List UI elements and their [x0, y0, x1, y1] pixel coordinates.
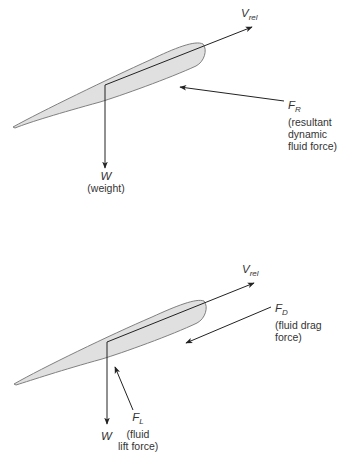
vrel-symbol: V: [242, 263, 250, 275]
fl-desc-line1: (fluid: [118, 428, 158, 440]
top-diagram: [13, 27, 284, 168]
weight-symbol: W: [101, 430, 112, 442]
resultant-force-label: FR (resultant dynamic fluid force): [288, 99, 337, 152]
vrel-arrow-bottom: [107, 283, 254, 342]
drag-force-label: FD (fluid drag force): [275, 302, 322, 343]
bottom-diagram: [14, 283, 271, 424]
fd-desc-line2: force): [275, 331, 322, 343]
fr-subscript: R: [295, 105, 301, 114]
lift-force-label: FL (fluid lift force): [118, 411, 158, 452]
vrel-subscript: rel: [249, 13, 258, 22]
fd-symbol: F: [275, 302, 282, 314]
lift-force-arrow: [115, 367, 133, 410]
vrel-label-bottom: Vrel: [242, 263, 259, 280]
resultant-force-arrow: [180, 87, 284, 101]
vrel-symbol: V: [241, 7, 249, 19]
vrel-subscript: rel: [250, 269, 259, 278]
fr-desc-line2: dynamic: [288, 128, 337, 140]
fd-subscript: D: [282, 308, 288, 317]
weight-label-top: W (weight): [86, 170, 126, 194]
fl-desc-line2: lift force): [118, 440, 158, 452]
fd-desc-line1: (fluid drag: [275, 319, 322, 331]
vrel-label-top: Vrel: [241, 7, 258, 24]
vrel-arrow-top: [105, 27, 252, 85]
airfoil-bottom: [14, 300, 206, 385]
fl-subscript: L: [139, 417, 143, 426]
fr-desc-line3: fluid force): [288, 140, 337, 152]
weight-label-bottom: W: [101, 430, 112, 442]
airfoil-top: [13, 43, 205, 128]
fr-desc-line1: (resultant: [288, 116, 337, 128]
fr-symbol: F: [288, 99, 295, 111]
weight-symbol: W: [86, 170, 126, 182]
weight-desc: (weight): [86, 182, 126, 194]
